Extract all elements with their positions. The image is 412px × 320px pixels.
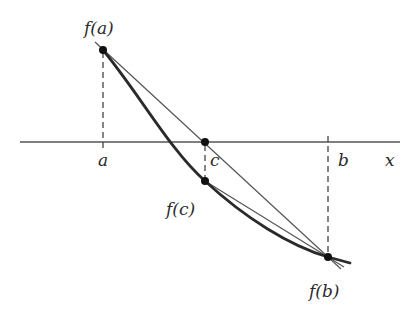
label-b: b xyxy=(338,150,349,170)
label-c: c xyxy=(210,150,220,170)
label-f-a: f(a) xyxy=(82,18,114,38)
label-a: a xyxy=(98,150,108,170)
secant-method-diagram: f(a) a c f(c) b x f(b) xyxy=(0,0,412,320)
point-f-a xyxy=(99,46,107,54)
point-f-c xyxy=(201,177,209,185)
label-f-b: f(b) xyxy=(307,281,339,301)
point-f-b xyxy=(324,253,332,261)
function-curve xyxy=(103,50,350,263)
label-f-c: f(c) xyxy=(164,199,195,219)
point-c-on-axis xyxy=(201,138,209,146)
label-x-axis: x xyxy=(385,150,395,170)
